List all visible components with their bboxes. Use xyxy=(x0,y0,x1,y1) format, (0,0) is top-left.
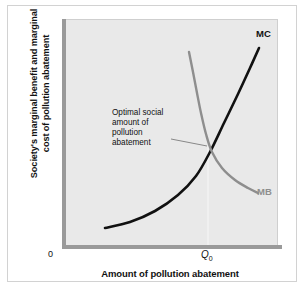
y-axis-line xyxy=(62,19,66,249)
plot-area xyxy=(62,19,278,245)
origin-tick-label: 0 xyxy=(48,249,53,259)
y-axis-label-line-2: cost of pollution abatement xyxy=(40,0,52,194)
optimal-social-amount-annotation: Optimal social amount of pollution abate… xyxy=(112,108,163,148)
plot-right-edge xyxy=(277,19,278,245)
mb-series-label: MB xyxy=(257,186,272,197)
annotation-line-4: abatement xyxy=(112,138,163,148)
plot-top-edge xyxy=(66,19,278,20)
x-axis-label: Amount of pollution abatement xyxy=(62,268,278,279)
q0-symbol: Q xyxy=(201,249,209,260)
mc-series-label: MC xyxy=(256,28,271,39)
annotation-line-2: amount of xyxy=(112,118,163,128)
annotation-line-3: pollution xyxy=(112,128,163,138)
x-axis-line xyxy=(62,245,282,249)
y-axis-label-line-1: Society's marginal benefit and marginal xyxy=(29,0,41,194)
y-axis-label: Society's marginal benefit and marginal … xyxy=(29,0,52,194)
x-tick-label-q0: Q0 xyxy=(201,249,213,262)
economics-chart-figure: Society's marginal benefit and marginal … xyxy=(0,0,305,288)
annotation-line-1: Optimal social xyxy=(112,108,163,118)
q0-subscript: 0 xyxy=(209,255,213,262)
